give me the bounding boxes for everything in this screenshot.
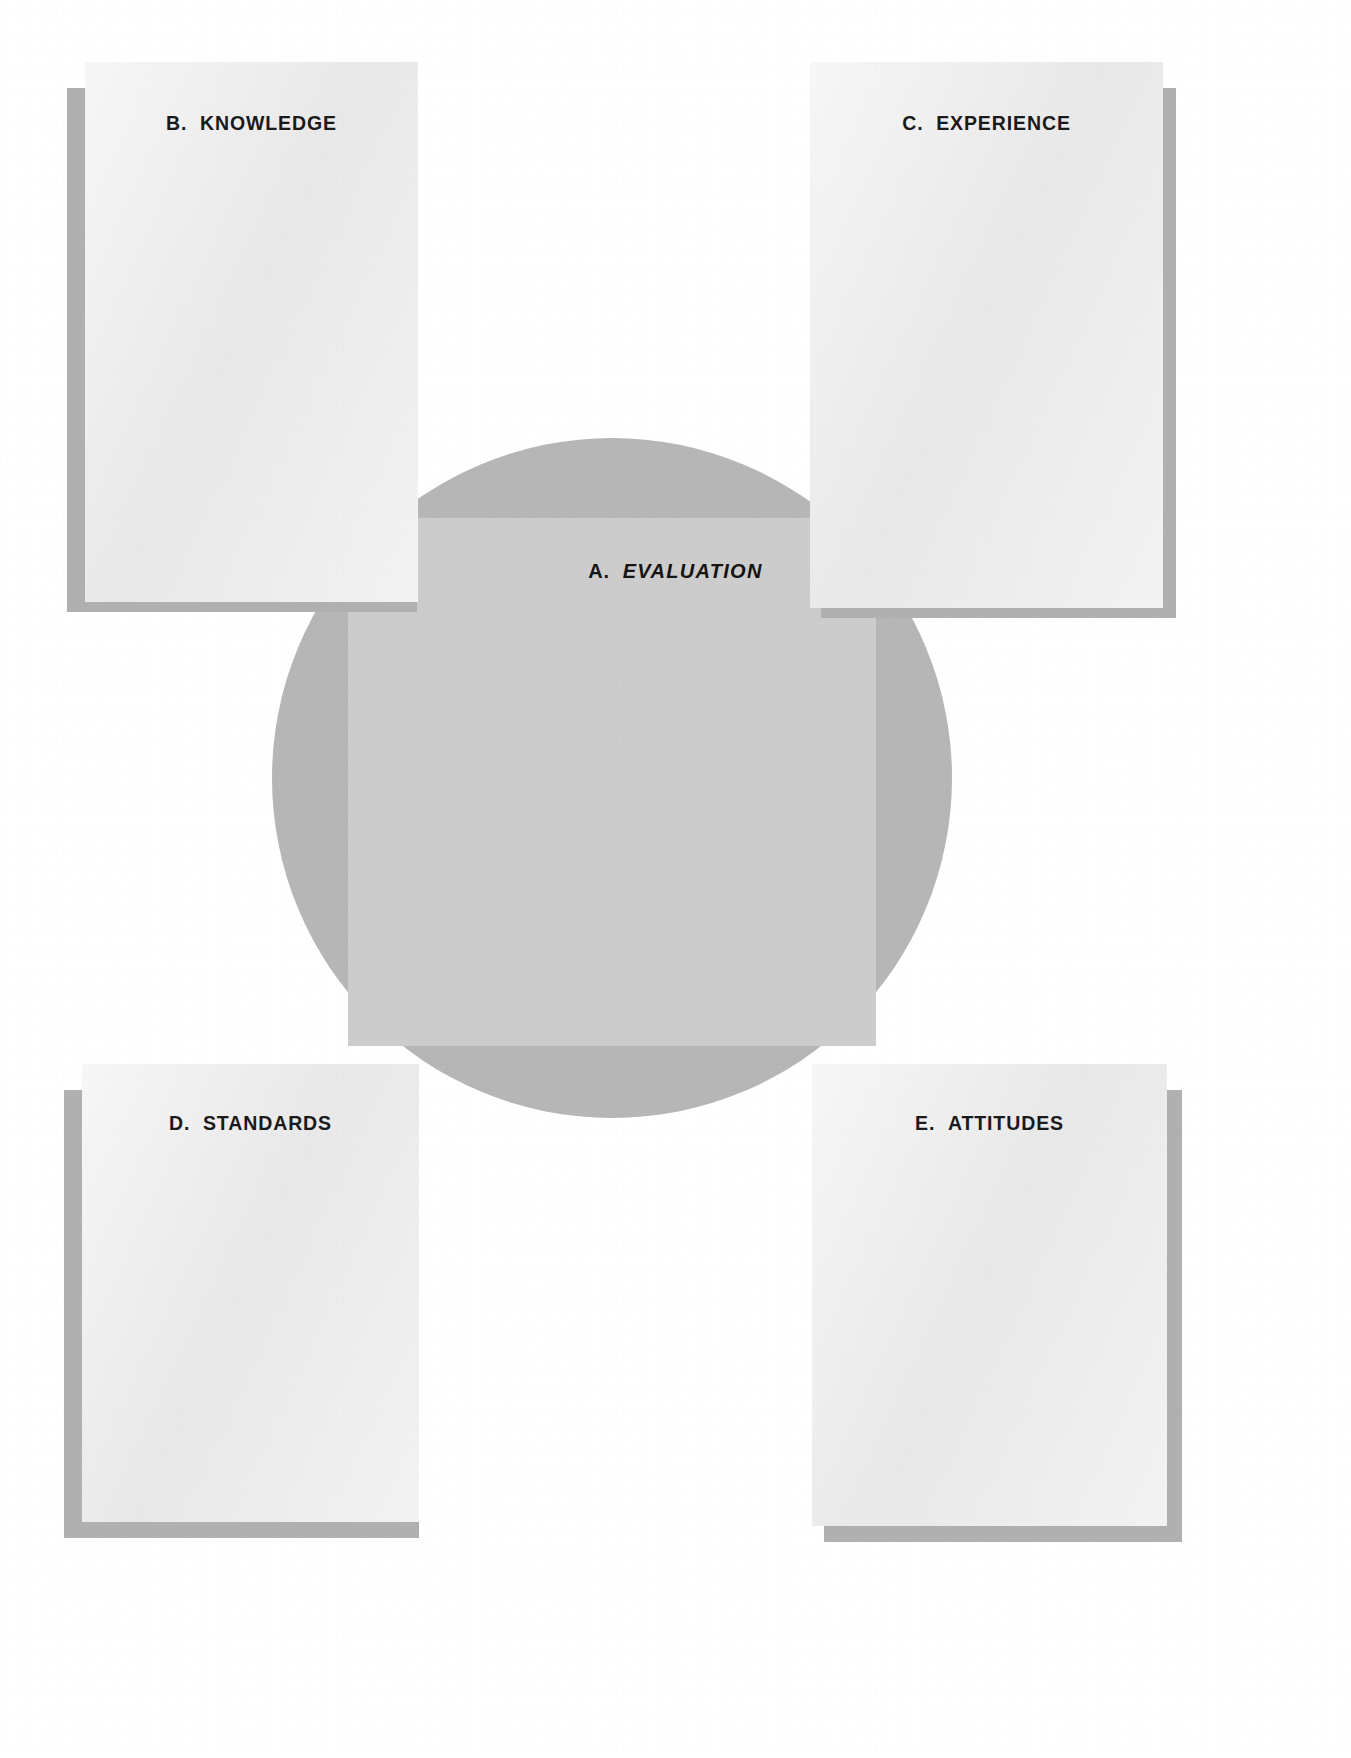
evaluation-hub-label-term: EVALUATION <box>623 560 763 582</box>
card-attitudes-surface[interactable]: E. ATTITUDES <box>812 1064 1167 1526</box>
card-experience-surface[interactable]: C. EXPERIENCE <box>810 62 1163 608</box>
card-attitudes-title: E. ATTITUDES <box>812 1112 1167 1135</box>
card-knowledge-title: B. KNOWLEDGE <box>85 112 418 135</box>
card-experience-lead: C. <box>902 112 923 134</box>
card-standards-lead: D. <box>169 1112 190 1134</box>
card-knowledge-surface[interactable]: B. KNOWLEDGE <box>85 62 418 602</box>
card-standards-term: STANDARDS <box>203 1112 332 1134</box>
card-attitudes[interactable]: E. ATTITUDES <box>790 930 1230 1570</box>
evaluation-hub-label-lead: A. <box>588 560 610 582</box>
card-attitudes-lead: E. <box>915 1112 935 1134</box>
card-knowledge-lead: B. <box>166 112 187 134</box>
card-attitudes-term: ATTITUDES <box>948 1112 1064 1134</box>
card-experience-title: C. EXPERIENCE <box>810 112 1163 135</box>
card-standards-title: D. STANDARDS <box>82 1112 419 1135</box>
card-standards-surface[interactable]: D. STANDARDS <box>82 1064 419 1522</box>
card-standards[interactable]: D. STANDARDS <box>0 930 440 1570</box>
card-knowledge[interactable]: B. KNOWLEDGE <box>0 0 440 640</box>
evaluation-hub-label: A. EVALUATION <box>0 560 1351 583</box>
hub-horizontal-band <box>348 612 876 952</box>
card-experience[interactable]: C. EXPERIENCE <box>790 0 1230 640</box>
card-experience-term: EXPERIENCE <box>936 112 1071 134</box>
diagram-page: A. EVALUATION B. KNOWLEDGE C. EXPERIENCE… <box>0 0 1351 1758</box>
card-knowledge-term: KNOWLEDGE <box>200 112 337 134</box>
